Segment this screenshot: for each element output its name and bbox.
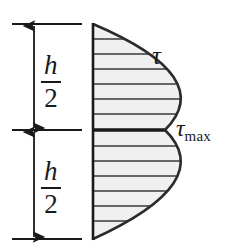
stress-region-group bbox=[93, 24, 228, 239]
shear-stress-diagram: h 2 h 2 τ τmax bbox=[0, 0, 228, 249]
diagram-canvas bbox=[0, 0, 228, 249]
